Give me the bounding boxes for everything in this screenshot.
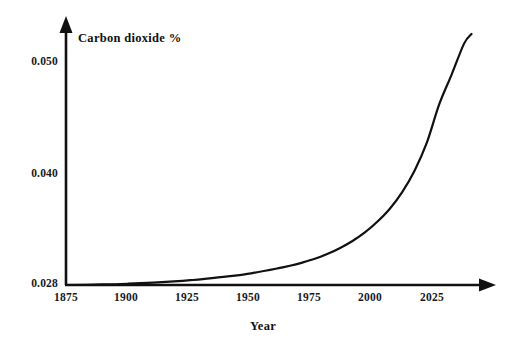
- y-tick-label-0028: 0.028: [8, 277, 58, 289]
- x-tick-label-2025: 2025: [406, 291, 458, 303]
- x-tick-label-1975: 1975: [283, 291, 335, 303]
- y-axis-arrowhead-icon: [60, 16, 73, 33]
- x-tick-label-1875: 1875: [40, 291, 92, 303]
- co2-growth-chart: Carbon dioxide % Year 0.050 0.040 0.028 …: [0, 0, 526, 351]
- x-tick-label-1950: 1950: [222, 291, 274, 303]
- y-tick-label-0050: 0.050: [8, 55, 58, 67]
- x-tick-label-1925: 1925: [161, 291, 213, 303]
- y-axis-title: Carbon dioxide %: [78, 31, 181, 46]
- x-tick-label-2000: 2000: [344, 291, 396, 303]
- x-tick-label-1900: 1900: [100, 291, 152, 303]
- y-tick-label-0040: 0.040: [8, 167, 58, 179]
- co2-curve: [66, 34, 472, 285]
- x-axis-title: Year: [0, 319, 526, 334]
- x-axis-arrowhead-icon: [479, 279, 496, 292]
